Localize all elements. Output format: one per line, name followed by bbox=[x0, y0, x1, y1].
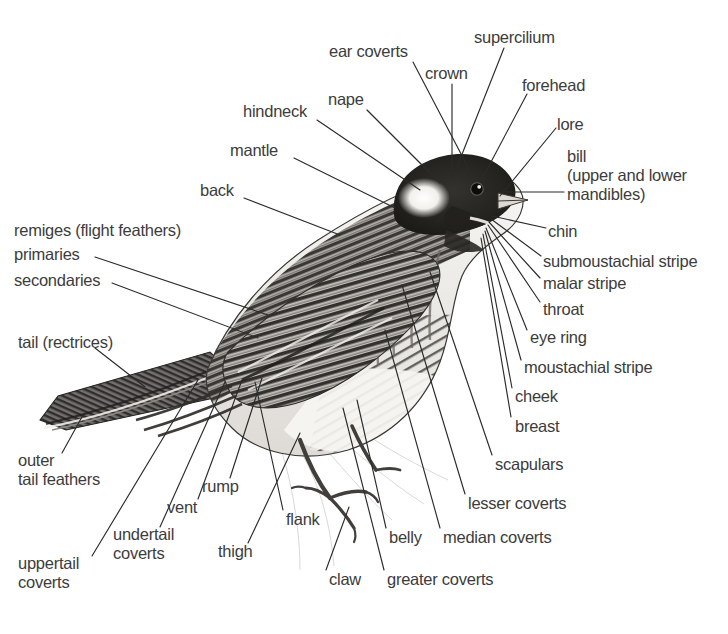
leader-forehead bbox=[482, 94, 527, 179]
bird-topography-diagram: ear covertssuperciliumcrownforeheadnapel… bbox=[0, 0, 728, 634]
label-tail-rectrices: tail (rectrices) bbox=[18, 333, 113, 352]
label-belly: belly bbox=[389, 528, 422, 547]
leader-back bbox=[244, 198, 340, 235]
label-lore: lore bbox=[557, 115, 584, 134]
leader-claw bbox=[326, 507, 349, 570]
leader-belly bbox=[357, 400, 386, 528]
label-ear-coverts: ear coverts bbox=[329, 42, 408, 61]
label-thigh: thigh bbox=[218, 542, 253, 561]
label-bill: bill (upper and lower mandibles) bbox=[567, 147, 687, 204]
label-lesser-coverts: lesser coverts bbox=[468, 494, 566, 513]
illustration-artboard bbox=[0, 0, 728, 634]
leader-lore bbox=[500, 128, 556, 196]
label-primaries: primaries bbox=[14, 245, 80, 264]
leader-hindneck bbox=[317, 120, 420, 190]
label-back: back bbox=[200, 181, 234, 200]
label-rump: rump bbox=[202, 477, 239, 496]
leader-eye-ring bbox=[486, 228, 527, 330]
leader-secondaries bbox=[112, 283, 258, 338]
label-mantle: mantle bbox=[230, 141, 278, 160]
leader-outer-tail-feathers bbox=[62, 415, 83, 453]
label-claw: claw bbox=[329, 570, 361, 589]
leader-greater-coverts bbox=[343, 408, 384, 570]
leader-nape bbox=[367, 110, 440, 183]
label-hindneck: hindneck bbox=[243, 102, 307, 121]
label-chin: chin bbox=[548, 222, 577, 241]
label-throat: throat bbox=[543, 300, 584, 319]
leader-breast bbox=[481, 238, 511, 417]
label-greater-coverts: greater coverts bbox=[387, 570, 493, 589]
label-breast: breast bbox=[515, 417, 559, 436]
label-secondaries: secondaries bbox=[14, 271, 100, 290]
leader-submoustachial-stripe bbox=[491, 219, 541, 256]
label-submoustachial-stripe: submoustachial stripe bbox=[543, 252, 697, 271]
label-scapulars: scapulars bbox=[495, 455, 563, 474]
leader-median-coverts bbox=[385, 330, 440, 528]
leader-scapulars bbox=[430, 272, 492, 455]
leader-mantle bbox=[294, 158, 395, 208]
label-supercilium: supercilium bbox=[474, 28, 555, 47]
label-remiges: remiges (flight feathers) bbox=[14, 221, 181, 240]
label-outer-tail-feathers: outer tail feathers bbox=[18, 451, 100, 489]
label-flank: flank bbox=[286, 510, 320, 529]
label-moustachial-stripe: moustachial stripe bbox=[524, 358, 652, 377]
label-crown: crown bbox=[425, 64, 468, 83]
label-undertail-coverts: undertail coverts bbox=[113, 525, 174, 563]
label-uppertail-coverts: uppertail coverts bbox=[18, 554, 79, 592]
leader-tail-rectrices bbox=[95, 348, 145, 387]
leader-flank bbox=[255, 382, 283, 510]
label-vent: vent bbox=[167, 498, 197, 517]
label-cheek: cheek bbox=[515, 387, 558, 406]
leader-lesser-coverts bbox=[402, 285, 465, 494]
label-forehead: forehead bbox=[522, 76, 585, 95]
leader-lines bbox=[0, 0, 728, 634]
label-nape: nape bbox=[328, 90, 364, 109]
label-median-coverts: median coverts bbox=[443, 528, 551, 547]
label-eye-ring: eye ring bbox=[530, 328, 587, 347]
label-malar-stripe: malar stripe bbox=[543, 274, 626, 293]
